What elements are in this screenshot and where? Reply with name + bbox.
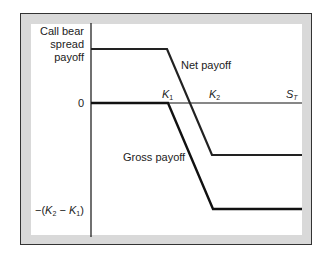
y-axis-label: Call bear spread payoff: [24, 25, 84, 64]
y-min-label: −(K2 − K1): [35, 204, 84, 220]
y-zero-label: 0: [24, 97, 84, 110]
strike-k2-label: K2: [209, 88, 220, 104]
strike-k1-label: K1: [162, 88, 173, 104]
x-axis-label: ST: [286, 88, 298, 104]
gross-payoff-label: Gross payoff: [123, 151, 185, 164]
net-payoff-label: Net payoff: [181, 59, 231, 72]
